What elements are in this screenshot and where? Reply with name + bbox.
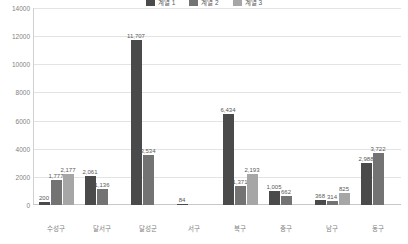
bar-value-label: 1,005 [266,184,281,190]
bar[interactable] [143,155,154,205]
legend-swatch-icon [146,0,155,6]
bar-value-label: 314 [327,194,337,200]
legend-item[interactable]: 계열 3 [233,0,262,7]
bar-slot [385,8,396,205]
x-axis-category-label: 중구 [263,207,309,237]
bar-value-label: 3,534 [140,148,155,154]
bar-slot: 6,434 [223,8,234,205]
y-axis-tick-label: 8000 [2,89,30,96]
bar[interactable] [223,114,234,205]
x-axis-category-label: 달성군 [125,207,171,237]
bar-slot [201,8,212,205]
bar-slot: 1,371 [235,8,246,205]
bar[interactable] [339,193,350,205]
bar-group: 11,7073,534 [125,8,171,205]
bar-slot: 2,177 [63,8,74,205]
bar-slot: 1,777 [51,8,62,205]
bar-slot: 1,005 [269,8,280,205]
legend-item[interactable]: 계열 2 [189,0,218,7]
legend-label: 계열 3 [245,0,262,7]
bar[interactable] [327,201,338,205]
bar-value-label: 3,722 [370,146,385,152]
bar[interactable] [63,174,74,205]
y-axis-tick-label: 4000 [2,145,30,152]
x-axis-category-label: 북구 [217,207,263,237]
bar-slot [189,8,200,205]
bar-slot: 11,707 [131,8,142,205]
legend-swatch-icon [233,0,242,6]
x-axis-category-label: 달서구 [79,207,125,237]
x-axis-category-label: 수성구 [33,207,79,237]
bar[interactable] [177,204,188,205]
x-axis-category-label: 서구 [171,207,217,237]
bar[interactable] [51,180,62,205]
y-axis-tick-label: 14000 [2,5,30,12]
legend-label: 계열 2 [201,0,218,7]
y-axis-tick-label: 2000 [2,173,30,180]
y-axis-tick-label: 10000 [2,61,30,68]
bar-slot: 368 [315,8,326,205]
bar[interactable] [269,191,280,205]
chart-legend: 계열 1계열 2계열 3 [0,0,408,8]
legend-item[interactable]: 계열 1 [146,0,175,7]
bar-slot: 314 [327,8,338,205]
bar-value-label: 2,193 [244,167,259,173]
bar-value-label: 84 [179,197,186,203]
bar-value-label: 2,061 [82,169,97,175]
bar-value-label: 200 [39,195,49,201]
bar-group: 2,9883,722 [355,8,401,205]
plot-area: 14000120001000080006000400020000 2001,77… [33,8,401,205]
bar-group: 6,4341,3712,193 [217,8,263,205]
bar-slot: 662 [281,8,292,205]
bar-value-label: 1,371 [232,179,247,185]
bar-value-label: 2,988 [358,156,373,162]
bar-slot: 3,534 [143,8,154,205]
bar-group: 368314825 [309,8,355,205]
bar-groups: 2001,7772,1772,0611,13611,7073,534846,43… [33,8,401,205]
bar-slot: 2,061 [85,8,96,205]
x-axis-labels: 수성구달서구달성군서구북구중구남구동구 [33,207,401,237]
bar[interactable] [85,176,96,205]
bar[interactable] [247,174,258,205]
bar-value-label: 825 [339,186,349,192]
bar-slot [293,8,304,205]
bar-slot: 3,722 [373,8,384,205]
bar[interactable] [39,202,50,205]
x-axis-category-label: 동구 [355,207,401,237]
bar[interactable] [131,40,142,205]
bar-value-label: 662 [281,189,291,195]
bar[interactable] [235,186,246,205]
bar-slot: 84 [177,8,188,205]
bar-value-label: 1,777 [48,173,63,179]
bar-slot [109,8,120,205]
bar-slot: 2,988 [361,8,372,205]
bar-group: 84 [171,8,217,205]
bar-slot [155,8,166,205]
bar-group: 2001,7772,177 [33,8,79,205]
bar-value-label: 1,136 [94,182,109,188]
bar[interactable] [315,200,326,205]
bar-group: 1,005662 [263,8,309,205]
y-axis-tick-label: 6000 [2,117,30,124]
y-axis-tick-label: 0 [2,202,30,209]
bar-slot: 1,136 [97,8,108,205]
legend-label: 계열 1 [158,0,175,7]
bar-group: 2,0611,136 [79,8,125,205]
bar[interactable] [281,196,292,205]
bar-slot: 825 [339,8,350,205]
y-axis-tick-label: 12000 [2,33,30,40]
bar-value-label: 368 [315,193,325,199]
bar-value-label: 2,177 [60,167,75,173]
bar-chart: 계열 1계열 2계열 3 140001200010000800060004000… [0,0,408,244]
bar[interactable] [373,153,384,205]
bar-slot: 2,193 [247,8,258,205]
x-axis-category-label: 남구 [309,207,355,237]
legend-swatch-icon [189,0,198,6]
bar-value-label: 6,434 [220,107,235,113]
bar[interactable] [361,163,372,205]
bar[interactable] [97,189,108,205]
